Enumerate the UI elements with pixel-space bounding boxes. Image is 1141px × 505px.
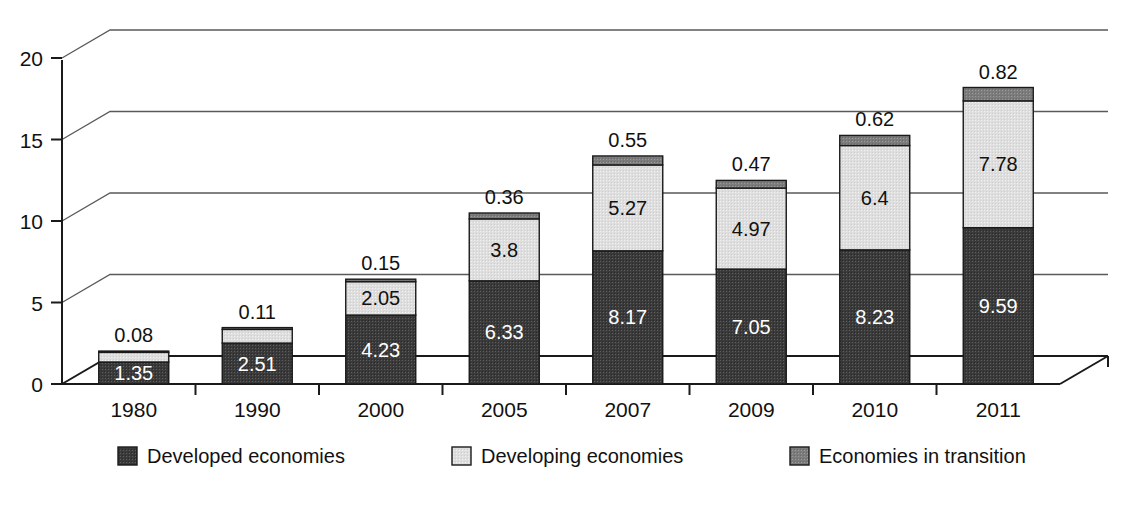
x-tick-label-2000: 2000 — [357, 398, 404, 421]
bar-group-2009: 7.054.970.47 — [716, 153, 786, 384]
bar-segment-2005-s2 — [469, 213, 539, 219]
segment-value-label: 4.23 — [361, 339, 400, 361]
y-tick-label-10: 10 — [20, 210, 43, 233]
chart-canvas: 05101520 1.350.082.510.114.232.050.156.3… — [0, 0, 1141, 505]
gridline-10 — [62, 193, 1108, 221]
legend-label: Economies in transition — [819, 445, 1026, 467]
segment-value-label: 7.05 — [732, 316, 771, 338]
bar-group-2005: 6.333.80.36 — [469, 186, 539, 384]
segment-value-label: 6.4 — [861, 187, 889, 209]
segment-value-label: 8.23 — [855, 306, 894, 328]
bar-group-1980: 1.350.08 — [99, 324, 169, 384]
legend-label: Developing economies — [481, 445, 683, 467]
segment-value-label: 3.8 — [490, 239, 518, 261]
gridline-5 — [62, 275, 1108, 303]
legend-swatch — [790, 447, 809, 465]
bar-segment-1980-s1 — [99, 352, 169, 362]
page-bleed-through-artifact — [352, 484, 357, 501]
y-axis-tick-labels: 05101520 — [20, 47, 43, 396]
stacked-bar-chart: 05101520 1.350.082.510.114.232.050.156.3… — [0, 0, 1141, 505]
segment-value-label: 6.33 — [485, 321, 524, 343]
segment-value-label: 1.35 — [114, 362, 153, 384]
x-axis-depth-edge — [1060, 356, 1108, 384]
legend-item-1: Developing economies — [452, 445, 683, 467]
bar-segment-2009-s2 — [716, 180, 786, 188]
bar-top-value-label: 0.62 — [855, 108, 894, 130]
segment-value-label: 9.59 — [979, 295, 1018, 317]
x-tick-label-2005: 2005 — [481, 398, 528, 421]
bar-group-1990: 2.510.11 — [222, 301, 292, 384]
segment-value-label: 2.05 — [361, 287, 400, 309]
bar-group-2000: 4.232.050.15 — [346, 252, 416, 384]
legend-item-2: Economies in transition — [790, 445, 1026, 467]
y-tick-label-15: 15 — [20, 129, 43, 152]
x-tick-label-1990: 1990 — [234, 398, 281, 421]
bar-top-value-label: 0.36 — [485, 186, 524, 208]
x-axis-tick-labels: 19801990200020052007200920102011 — [110, 398, 1020, 421]
bar-group-2010: 8.236.40.62 — [840, 108, 910, 384]
bar-segment-2011-s2 — [963, 88, 1033, 101]
gridlines — [62, 30, 1108, 384]
gridline-15 — [62, 112, 1108, 140]
legend-label: Developed economies — [147, 445, 345, 467]
bar-segment-2010-s2 — [840, 135, 910, 145]
gridline-0 — [62, 356, 1108, 384]
segment-value-label: 2.51 — [238, 353, 277, 375]
bar-segment-1990-s2 — [222, 328, 292, 330]
legend-swatch — [118, 447, 137, 465]
bar-top-value-label: 0.15 — [361, 252, 400, 274]
chart-legend: Developed economiesDeveloping economiesE… — [118, 445, 1026, 467]
bar-top-value-label: 0.11 — [239, 301, 276, 323]
x-tick-label-2011: 2011 — [976, 398, 1021, 421]
bar-segment-1990-s1 — [222, 329, 292, 343]
bar-segment-1980-s2 — [99, 351, 169, 352]
segment-value-label: 5.27 — [608, 197, 647, 219]
axes — [51, 58, 1108, 384]
gridline-20 — [62, 30, 1108, 58]
legend-swatch — [452, 447, 471, 465]
y-tick-label-5: 5 — [31, 292, 43, 315]
x-tick-label-1980: 1980 — [110, 398, 157, 421]
bar-group-2011: 9.597.780.82 — [963, 61, 1033, 384]
y-tick-label-0: 0 — [31, 373, 43, 396]
segment-value-label: 8.17 — [608, 306, 647, 328]
bar-series-group: 1.350.082.510.114.232.050.156.333.80.368… — [99, 61, 1034, 384]
bar-segment-2007-s2 — [593, 156, 663, 165]
x-tick-label-2010: 2010 — [851, 398, 898, 421]
segment-value-label: 7.78 — [979, 153, 1018, 175]
legend-item-0: Developed economies — [118, 445, 345, 467]
bar-top-value-label: 0.08 — [114, 324, 153, 346]
bar-segment-2000-s2 — [346, 279, 416, 281]
bar-top-value-label: 0.82 — [979, 61, 1018, 83]
x-tick-label-2009: 2009 — [728, 398, 775, 421]
bar-group-2007: 8.175.270.55 — [593, 129, 663, 384]
y-tick-label-20: 20 — [20, 47, 43, 70]
x-tick-label-2007: 2007 — [604, 398, 651, 421]
bar-top-value-label: 0.55 — [608, 129, 647, 151]
bar-top-value-label: 0.47 — [732, 153, 771, 175]
segment-value-label: 4.97 — [732, 218, 771, 240]
